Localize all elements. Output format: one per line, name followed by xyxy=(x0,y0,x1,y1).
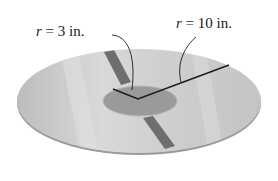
outer-radius-label: r = 10 in. xyxy=(176,16,232,31)
inner-radius-label: r = 3 in. xyxy=(36,24,84,39)
washer-diagram: r = 3 in. r = 10 in. xyxy=(0,0,278,181)
outer-radius-value: 10 in. xyxy=(198,15,232,31)
inner-radius-equals: = xyxy=(42,23,58,39)
outer-disc xyxy=(17,49,261,153)
outer-radius-equals: = xyxy=(182,15,198,31)
inner-radius-value: 3 in. xyxy=(58,23,85,39)
